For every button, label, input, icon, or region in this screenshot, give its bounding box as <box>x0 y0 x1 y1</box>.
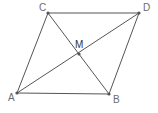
side-bd <box>109 13 139 94</box>
parallelogram-diagram: A B C D M <box>0 0 158 113</box>
point-a <box>15 91 18 94</box>
label-a: A <box>8 92 15 103</box>
label-b: B <box>113 94 120 105</box>
point-b <box>107 92 110 95</box>
side-ab <box>17 93 109 94</box>
label-d: D <box>143 2 150 13</box>
point-c <box>46 11 49 14</box>
label-m: M <box>75 39 83 50</box>
label-c: C <box>39 2 46 13</box>
point-m <box>77 52 80 55</box>
point-d <box>137 11 140 14</box>
side-ca <box>17 13 48 93</box>
